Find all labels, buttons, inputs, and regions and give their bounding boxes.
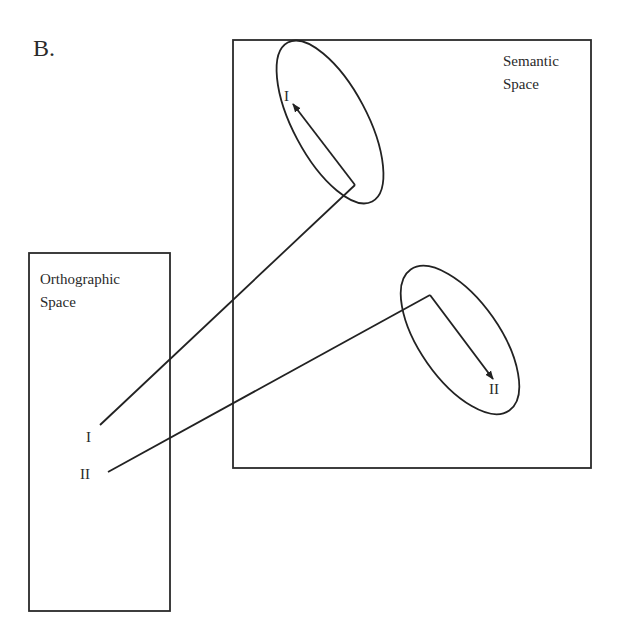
orthographic-space-title-line1: Orthographic	[40, 268, 120, 291]
semantic-label-i: I	[284, 88, 289, 105]
orthographic-label-i: I	[86, 429, 91, 446]
arrow-to-meaning-i	[293, 104, 355, 185]
panel-label: B.	[33, 35, 55, 61]
semantic-cluster-ii-ellipse	[378, 247, 542, 434]
orthographic-space-title-line2: Space	[40, 291, 120, 314]
mapping-line-i	[100, 185, 355, 425]
semantic-space-title-line1: Semantic	[503, 50, 559, 73]
mapping-line-ii	[108, 295, 430, 472]
semantic-label-ii: II	[489, 381, 499, 398]
arrow-to-meaning-ii	[430, 295, 493, 379]
orthographic-space-title: Orthographic Space	[40, 268, 120, 314]
semantic-space-title-line2: Space	[503, 73, 559, 96]
orthographic-label-ii: II	[80, 466, 90, 483]
semantic-cluster-i-ellipse	[255, 25, 405, 219]
semantic-space-title: Semantic Space	[503, 50, 559, 96]
